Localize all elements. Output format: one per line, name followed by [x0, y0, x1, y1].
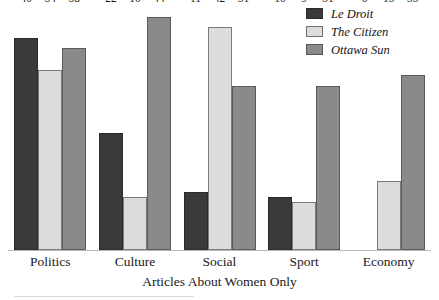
legend-item: Ottawa Sun: [306, 41, 436, 58]
bar-rect: 11: [184, 192, 208, 250]
bar: 38: [62, 6, 86, 250]
legend-label: Le Droit: [331, 7, 373, 21]
bar-value-label: 40: [21, 0, 33, 6]
bar-value-label: 10: [129, 0, 141, 6]
bar-rect: 13: [377, 181, 401, 250]
bar-rect: 31: [232, 86, 256, 250]
category-label-social: Social: [177, 253, 262, 271]
bar-rect: 42: [208, 27, 232, 250]
x-axis-title: Articles About Women Only: [0, 273, 439, 290]
category-label-sport: Sport: [262, 253, 347, 271]
bar-rect: 10: [123, 197, 147, 250]
bar-value-label: 42: [214, 0, 226, 6]
grouped-bar-chart: 4034382210441142311093101333 PoliticsCul…: [0, 0, 439, 300]
bar: 10: [123, 6, 147, 250]
footer-rule: [14, 296, 194, 297]
bar: 40: [14, 6, 38, 250]
bar-group: 221044: [99, 6, 171, 250]
bar: 10: [268, 6, 292, 250]
bar: 11: [184, 6, 208, 250]
bar-rect: 33: [401, 75, 425, 250]
bar-group: 114231: [184, 6, 256, 250]
bar-value-label: 22: [105, 0, 117, 6]
legend-swatch-icon: [306, 26, 323, 37]
x-axis-category-labels: PoliticsCultureSocialSportEconomy: [8, 253, 431, 273]
bar: 22: [99, 6, 123, 250]
bar-value-label: 34: [45, 0, 57, 6]
category-label-economy: Economy: [346, 253, 431, 271]
bar-rect: 38: [62, 48, 86, 250]
bar-rect: 22: [99, 133, 123, 250]
legend-label: Ottawa Sun: [331, 43, 390, 57]
bar: 42: [208, 6, 232, 250]
legend-item: Le Droit: [306, 5, 436, 22]
bar-value-label: 10: [274, 0, 286, 6]
bar-rect: 9: [292, 202, 316, 250]
bar-rect: 34: [38, 70, 62, 250]
bar-rect: 40: [14, 38, 38, 250]
category-label-politics: Politics: [8, 253, 93, 271]
bar-value-label: 31: [238, 0, 250, 6]
bar-value-label: 38: [69, 0, 81, 6]
legend-swatch-icon: [306, 44, 323, 55]
bar-rect: 44: [147, 17, 171, 250]
bar-value-label: 44: [153, 0, 165, 6]
legend-swatch-icon: [306, 8, 323, 19]
legend-label: The Citizen: [331, 25, 388, 39]
bar-group: 403438: [14, 6, 86, 250]
chart-legend: Le DroitThe CitizenOttawa Sun: [306, 5, 436, 59]
bar-rect: 31: [316, 86, 340, 250]
bar-rect: 10: [268, 197, 292, 250]
category-label-culture: Culture: [93, 253, 178, 271]
bar-value-label: 11: [190, 0, 201, 6]
bar: 44: [147, 6, 171, 250]
legend-item: The Citizen: [306, 23, 436, 40]
bar: 34: [38, 6, 62, 250]
bar: 31: [232, 6, 256, 250]
x-axis-line: [8, 250, 431, 251]
